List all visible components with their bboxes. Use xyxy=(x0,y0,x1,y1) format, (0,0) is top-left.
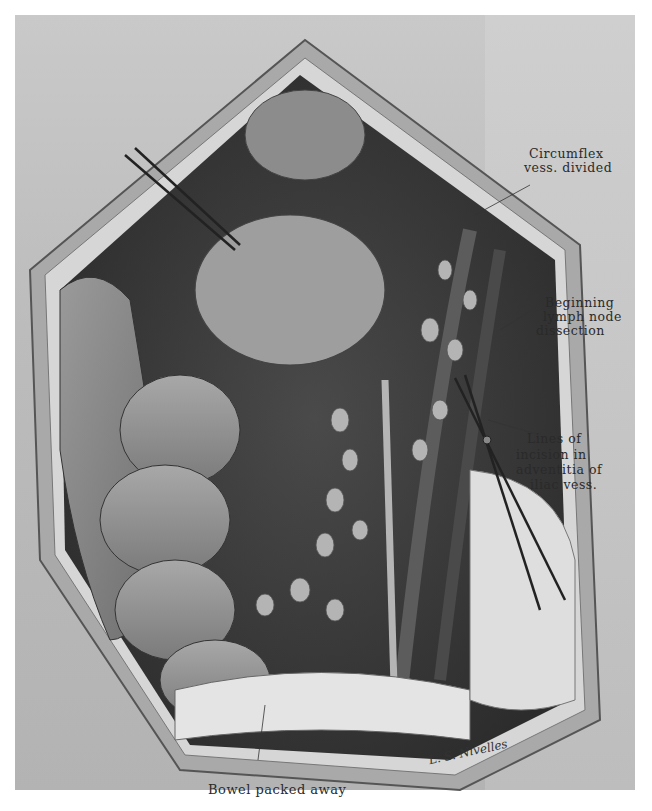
surgical-illustration xyxy=(0,0,652,811)
label-lymph-line1: Beginning xyxy=(545,296,614,310)
label-lymph-line2: lymph node xyxy=(543,310,622,324)
label-incision-line3: adventitia of xyxy=(516,463,602,477)
label-incision-line2: incision in xyxy=(516,448,587,462)
label-circumflex-line1: Circumflex xyxy=(529,147,604,161)
packed-gauze xyxy=(175,673,470,741)
label-bowel: Bowel packed away xyxy=(208,783,346,797)
label-circumflex-line2: vess. divided xyxy=(524,161,612,175)
pelvic-organ xyxy=(195,215,385,365)
label-lymph-line3: dissection xyxy=(536,324,605,338)
label-incision-line1: Lines of xyxy=(527,432,581,446)
label-incision-line4: iliac vess. xyxy=(530,478,597,492)
